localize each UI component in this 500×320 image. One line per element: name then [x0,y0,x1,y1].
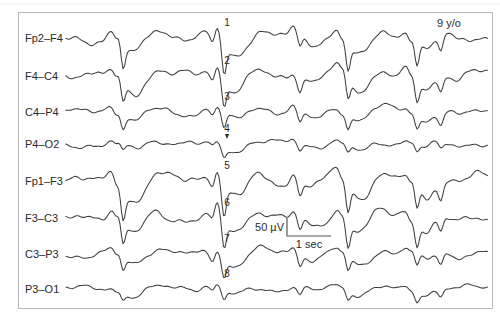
time-scale-label: 1 sec [296,238,323,250]
discharge-marker: 8 [224,268,230,279]
discharge-marker: 7 [224,233,230,244]
panel-frame [19,13,493,309]
channel-label: Fp2–F4 [25,32,63,44]
age-annotation: 9 y/o [437,17,461,29]
eeg-plot: Fp2–F4 F4–C4 C4–P4 P4–O2 Fp1–F3 F3–C3 C3… [0,0,500,320]
channel-label: F4–C4 [25,70,58,82]
voltage-scale-label: 50 µV [255,221,285,233]
channel-label: C4–P4 [25,106,59,118]
channel-label: C3–P3 [25,248,59,260]
discharge-marker: 3 [224,91,230,102]
eeg-figure: Fp2–F4 F4–C4 C4–P4 P4–O2 Fp1–F3 F3–C3 C3… [0,0,500,320]
channel-label: P3–O1 [25,283,59,295]
discharge-marker: 2 [224,55,230,66]
channel-label: Fp1–F3 [25,175,63,187]
discharge-marker: 6 [224,197,230,208]
discharge-marker: 1 [224,17,230,28]
discharge-marker: 5 [224,160,230,171]
discharge-marker: 4 [224,123,230,134]
channel-label: P4–O2 [25,138,59,150]
channel-label: F3–C3 [25,212,58,224]
